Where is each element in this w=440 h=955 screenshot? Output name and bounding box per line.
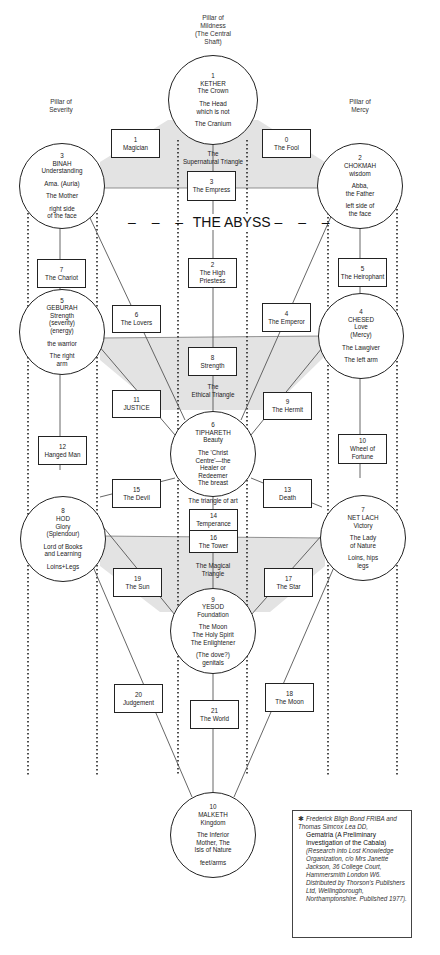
sephirah-number: 6 — [211, 421, 215, 429]
sephirah-line: the warrior — [47, 340, 77, 348]
path-number: 18 — [286, 690, 293, 698]
sephirah-line: The Cranium — [195, 120, 231, 128]
path-name: The Sun — [126, 583, 150, 591]
path-number: 0 — [285, 136, 289, 144]
sephirah-line: The Head — [199, 100, 227, 108]
sephirah-line: The right — [50, 352, 75, 360]
path-name: The World — [200, 715, 229, 723]
sephirah-line: The Inferior — [197, 831, 229, 839]
sephirah-number: 10 — [209, 803, 216, 811]
sephirah-name: CHOKMAH — [344, 162, 376, 170]
footnote-details: (Research into Lost Knowledge Organizati… — [298, 847, 408, 903]
path-name: The Lovers — [121, 319, 153, 327]
sephirah-line: Loins, hips — [348, 554, 378, 562]
pillar-label-line: (The Central — [183, 30, 243, 38]
sephirah-line: Isis of Nature — [194, 846, 231, 854]
sephirah-line: Mother, The — [196, 839, 230, 847]
sephirah-line: Victory — [353, 522, 372, 530]
sephirah-geburah: 5 GEBURAH Strength (severity) (energy) t… — [19, 289, 105, 375]
path-number: 15 — [133, 486, 140, 494]
sephirah-line: Healer or — [200, 464, 226, 472]
abyss-text: THE ABYSS — [193, 214, 271, 230]
path-number: 9 — [286, 398, 290, 406]
path-name: The Tower — [199, 542, 228, 550]
sephirah-number: 7 — [361, 506, 365, 514]
sephirah-line: of Nature — [350, 542, 376, 550]
sephirah-line: The Lawgiver — [342, 344, 380, 352]
sephirah-line: left side of — [346, 202, 375, 210]
path-name: The Star — [276, 583, 300, 591]
sephirah-kether: 1 KETHER The Crown The Head which is not… — [168, 55, 258, 145]
path-box-11-justice: 11 JUSTICE — [112, 390, 161, 418]
path-number: 1 — [134, 136, 138, 144]
sephirah-line: Strength — [50, 312, 74, 320]
sephirah-name: CHESED — [348, 316, 374, 324]
sephirah-line: Lord of Books — [44, 543, 83, 551]
pillar-mercy-label: Pillar of Mercy — [340, 98, 380, 114]
ethical-triangle-label: The Ethical Triangle — [168, 383, 258, 399]
path-box-6-lovers: 6 The Lovers — [112, 305, 161, 333]
magical-triangle-label: The Magical Triangle — [168, 562, 258, 578]
path-name: Death — [279, 494, 296, 502]
sephirah-name: NET LACH — [347, 514, 378, 522]
path-box-9-hermit: 9 The Hermit — [263, 392, 312, 420]
triangle-label-line: The — [168, 150, 258, 158]
path-name: Temperance — [196, 520, 231, 528]
path-box-0-fool: 0 The Fool — [262, 129, 311, 158]
path-number: 14 — [210, 512, 217, 520]
sephirah-number: 4 — [359, 308, 363, 316]
path-box-17-star: 17 The Star — [264, 568, 313, 597]
path-box-7-chariot: 7 The Chariot — [37, 259, 86, 288]
sephirah-line: The 'Christ — [198, 449, 228, 457]
path-number: 2 — [211, 261, 215, 269]
pillar-label-line: Pillar of — [183, 14, 243, 22]
triangle-label-line: Triangle — [168, 570, 258, 578]
sephirah-tiphareth: 6 TIPHARETH Beauty The 'Christ Centre'—t… — [170, 411, 256, 497]
sephirah-name: TIPHARETH — [195, 429, 231, 437]
path-box-20-judgement: 20 Judgement — [114, 684, 163, 713]
sephirah-line: The Moon — [199, 623, 227, 631]
sephirah-line: (The dove?) — [196, 651, 230, 659]
sephirah-line: which is not — [197, 108, 230, 116]
sephirah-line: Kingdom — [201, 819, 226, 827]
triangle-label-line: The triangle of art — [168, 497, 258, 505]
triangle-label-line: The — [168, 383, 258, 391]
sephirah-name: HOD — [56, 515, 70, 523]
pillar-label-line: Pillar of — [36, 98, 86, 106]
path-name: The Emperor — [268, 318, 305, 326]
sephirah-line: the Father — [346, 190, 375, 198]
sephirah-line: Loins+Legs — [47, 563, 79, 571]
sephirah-line: the face — [349, 210, 371, 218]
sephirah-line: Centre'—the — [195, 457, 230, 465]
sephirah-line: Foundation — [197, 611, 229, 619]
sephirah-number: 5 — [60, 297, 64, 305]
sephirah-line: Beauty — [203, 436, 223, 444]
sephirah-name: YESOD — [202, 603, 224, 611]
sephirah-line: (Mercy) — [350, 331, 371, 339]
triangle-label-line: Supernatural Triangle — [168, 158, 258, 166]
footnote-title: Gematria (A Preliminary Investigation of… — [298, 831, 408, 847]
path-box-18-moon: 18 The Moon — [265, 683, 314, 712]
sephirah-name: BINAH — [52, 160, 71, 168]
sephirah-number: 3 — [60, 152, 64, 160]
sephirah-name: GEBURAH — [46, 304, 77, 312]
path-box-15-devil: 15 The Devil — [112, 479, 161, 508]
sephirah-line: of the face — [47, 212, 76, 220]
path-box-13-death: 13 Death — [263, 479, 312, 508]
sephirah-chokmah: 2 CHOKMAH wisdom Abba, the Father left s… — [317, 143, 403, 229]
path-name: Judgement — [123, 699, 154, 707]
path-number: 20 — [135, 691, 142, 699]
sephirah-line: legs — [357, 562, 369, 570]
sephirah-line: The Mother — [46, 192, 78, 200]
footnote-authors: Frederick Bligh Bond FRIBA and Thomas Si… — [298, 815, 397, 830]
sephirah-line: feet/arms — [200, 859, 226, 867]
path-box-5-heirophant: 5 The Heirophant — [338, 258, 387, 287]
path-number: 7 — [60, 266, 64, 274]
pillar-label-line: Mildness — [183, 22, 243, 30]
sephirah-yesod: 9 YESOD Foundation The Moon The Holy Spi… — [170, 588, 256, 674]
sephirah-chesed: 4 CHESED Love (Mercy) The Lawgiver The l… — [318, 293, 404, 379]
sephirah-number: 1 — [211, 72, 215, 80]
sephirah-hod: 8 HOD Glory (Splendour) Lord of Books an… — [20, 496, 106, 582]
sephirah-binah: 3 BINAH Understanding Ama. (Auria) The M… — [19, 143, 105, 229]
sephirah-line: and Learning — [45, 550, 82, 558]
